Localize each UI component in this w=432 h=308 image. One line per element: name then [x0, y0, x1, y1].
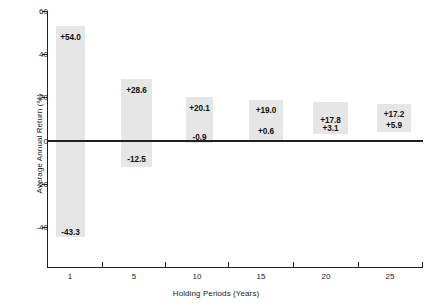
bar-value-high-25: +17.2 — [377, 110, 411, 119]
x-tick-label-20: 20 — [306, 272, 346, 281]
x-tick-label-5: 5 — [114, 272, 154, 281]
x-tick-label-1: 1 — [50, 272, 90, 281]
x-tick-2 — [165, 262, 166, 268]
chart-container: Average Annual Return (%) 60 40 20 0 -20… — [0, 0, 432, 308]
x-tick-3 — [228, 262, 229, 268]
x-tick-6 — [422, 262, 423, 268]
bar-value-high-5: +28.6 — [121, 86, 152, 95]
bar-value-low-1: -43.3 — [56, 228, 85, 237]
x-tick-5 — [358, 262, 359, 268]
y-tick-label-minus40: -40 — [24, 223, 48, 232]
x-tick-4 — [293, 262, 294, 268]
bar-value-low-10: -0.9 — [184, 133, 215, 142]
y-tick-label-minus20: -20 — [24, 180, 48, 189]
zero-baseline — [47, 140, 423, 142]
bar-value-low-15: +0.6 — [249, 127, 283, 136]
bar-value-low-5: -12.5 — [121, 155, 152, 164]
bar-period-1 — [56, 26, 85, 237]
bar-value-high-10: +20.1 — [184, 104, 215, 113]
bar-value-high-1: +54.0 — [56, 33, 85, 42]
y-tick-label-60: 60 — [24, 7, 48, 16]
y-tick-label-40: 40 — [24, 50, 48, 59]
x-tick-label-10: 10 — [177, 272, 217, 281]
x-axis-line — [47, 267, 423, 268]
bar-value-low-20: +3.1 — [313, 124, 348, 133]
bar-value-low-25: +5.9 — [377, 121, 411, 130]
y-tick-label-0: 0 — [24, 137, 48, 146]
x-tick-label-25: 25 — [370, 272, 410, 281]
x-tick-1 — [102, 262, 103, 268]
x-tick-label-15: 15 — [241, 272, 281, 281]
x-axis-title: Holding Periods (Years) — [0, 289, 432, 298]
y-tick-label-20: 20 — [24, 93, 48, 102]
bar-value-high-15: +19.0 — [249, 106, 283, 115]
